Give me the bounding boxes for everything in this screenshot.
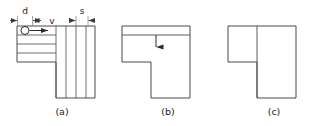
dimension-label-v: v [49,16,55,26]
dimension-v: v [34,16,55,26]
workpiece-a [17,26,95,98]
horizontal-bands-a [17,35,56,53]
diagram-canvas: d v s [0,0,310,126]
figure-caption-a: (a) [55,106,68,117]
figure-c: (c) [228,26,296,117]
dimension-annotations-a: d v s [10,6,95,26]
dimension-label-s: s [80,6,85,16]
cutter-circle [21,27,29,35]
vertical-bands-a [56,26,86,98]
workpiece-c-outline [228,26,296,98]
dimension-label-d: d [22,6,28,16]
figure-caption-b: (b) [161,106,174,117]
figure-caption-c: (c) [268,106,281,117]
dimension-d: d [10,6,40,26]
figure-a: d v s [10,6,95,118]
dimension-s: s [69,6,95,26]
machining-diagram: d v s [0,0,310,126]
figure-b: (b) [122,26,190,117]
